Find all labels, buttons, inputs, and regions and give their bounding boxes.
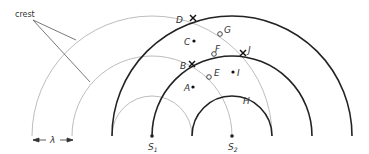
- source-dot-icon: [150, 134, 154, 138]
- source-s2: S2: [228, 134, 238, 153]
- point-label-d: D: [176, 15, 183, 25]
- s1-crest-r120: [32, 16, 272, 136]
- point-label-g: G: [224, 25, 231, 35]
- cross-marker-icon: [190, 15, 196, 21]
- source-subscript: 2: [234, 146, 238, 153]
- point-label-b: B: [180, 61, 186, 71]
- cross-marker-icon: [240, 50, 246, 56]
- point-label-f: F: [215, 44, 221, 54]
- source2-wavefronts: [112, 16, 352, 136]
- source-subscript: 1: [154, 146, 158, 153]
- dot-marker-icon: [191, 85, 194, 88]
- svg-text:S1: S1: [148, 142, 158, 153]
- source-s1: S1: [148, 134, 158, 153]
- point-label-e: E: [214, 68, 220, 78]
- wavelength-label: λ: [49, 135, 55, 145]
- open-circle-marker-icon: [218, 32, 223, 37]
- point-label-h: H: [243, 96, 250, 106]
- dot-marker-icon: [231, 70, 234, 73]
- point-label-i: I: [237, 68, 240, 78]
- point-label-a: A: [183, 83, 190, 93]
- crest-pointer-lines: [33, 20, 90, 82]
- source-dot-icon: [230, 134, 234, 138]
- dot-marker-icon: [192, 39, 195, 42]
- point-labels: D G C F J B E I A H: [176, 15, 251, 106]
- source1-wavefronts: [32, 16, 272, 136]
- point-label-c: C: [184, 37, 191, 47]
- s2-crest-r120: [112, 16, 352, 136]
- interference-diagram: crest λ S1 S2: [0, 0, 369, 154]
- open-circle-marker-icon: [207, 75, 212, 80]
- svg-text:S2: S2: [228, 142, 238, 153]
- point-label-j: J: [246, 45, 251, 55]
- crest-label: crest: [15, 10, 35, 19]
